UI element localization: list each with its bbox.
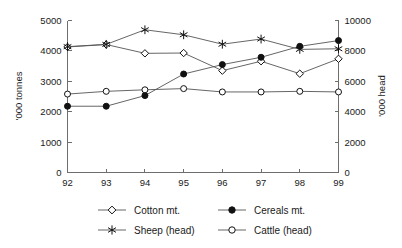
y-axis-right-title: '000 head — [376, 75, 387, 116]
data-point — [103, 103, 109, 109]
y-axis-left-tick-label: 4000 — [40, 45, 61, 56]
data-point — [219, 62, 225, 68]
data-point — [65, 91, 71, 97]
y-axis-left-tick-label: 3000 — [40, 76, 61, 87]
x-axis-tick-label: 96 — [217, 177, 228, 188]
legend-marker-open-circle — [229, 227, 235, 233]
y-axis-left-tick-label: 5000 — [40, 15, 61, 26]
legend-item-label: Cotton mt. — [134, 205, 180, 216]
series-cattle-head — [65, 86, 342, 97]
x-axis-tick-label: 94 — [140, 177, 151, 188]
data-point — [142, 87, 148, 93]
data-point — [65, 103, 71, 109]
legend-item: Cotton mt. — [98, 205, 180, 216]
line-chart: 0100020003000400050000200040006000800010… — [0, 0, 402, 248]
series-sheep-head — [64, 25, 343, 53]
x-axis-tick-label: 97 — [256, 177, 267, 188]
legend-item-label: Cereals mt. — [254, 205, 305, 216]
x-axis-tick-label: 99 — [333, 177, 344, 188]
x-axis-tick-label: 93 — [101, 177, 112, 188]
data-point — [181, 71, 187, 77]
legend-marker-open-diamond — [108, 206, 116, 214]
y-axis-right-tick-label: 8000 — [345, 45, 366, 56]
data-point — [219, 89, 225, 95]
data-point — [335, 55, 342, 62]
y-axis-left-tick-label: 0 — [56, 167, 61, 178]
chart-figure: 0100020003000400050000200040006000800010… — [0, 0, 402, 248]
x-axis-tick-label: 92 — [62, 177, 73, 188]
data-point — [336, 89, 342, 95]
data-point — [336, 38, 342, 44]
y-axis-right-tick-label: 6000 — [345, 76, 366, 87]
y-axis-left-title: '000 tonnes — [13, 71, 24, 120]
legend-item: Cereals mt. — [218, 205, 305, 216]
data-point — [296, 70, 303, 77]
y-axis-right-tick-label: 4000 — [345, 106, 366, 117]
x-axis-tick-label: 95 — [178, 177, 189, 188]
data-point — [103, 88, 109, 94]
x-axis-tick-label: 98 — [294, 177, 305, 188]
y-axis-left-tick-label: 1000 — [40, 137, 61, 148]
legend-item: Cattle (head) — [218, 225, 312, 236]
data-point — [180, 49, 187, 56]
data-point — [258, 54, 264, 60]
x-axis: 9293949596979899 — [62, 169, 344, 188]
legend-item: Sheep (head) — [98, 225, 195, 236]
legend-item-label: Cattle (head) — [254, 225, 312, 236]
data-point — [181, 86, 187, 92]
data-point — [297, 88, 303, 94]
data-point — [258, 89, 264, 95]
y-axis-right-tick-label: 10000 — [345, 15, 371, 26]
legend-item-label: Sheep (head) — [134, 225, 195, 236]
y-axis-left-tick-label: 2000 — [40, 106, 61, 117]
data-point — [142, 93, 148, 99]
data-point — [141, 50, 148, 57]
y-axis-right-tick-label: 2000 — [345, 137, 366, 148]
legend-marker-filled-circle — [229, 207, 235, 213]
y-axis-right-tick-label: 0 — [345, 167, 350, 178]
chart-legend: Cotton mt.Cereals mt.Sheep (head)Cattle … — [98, 205, 312, 236]
